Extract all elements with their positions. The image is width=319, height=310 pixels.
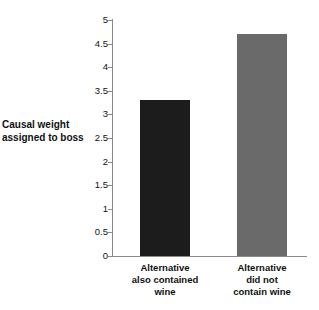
y-axis-tick-row: 0 <box>80 256 108 257</box>
y-axis-tick-row: 2 <box>80 162 108 163</box>
y-axis-tick-row: 5 <box>80 20 108 21</box>
y-axis-tick-row: 3.5 <box>80 91 108 92</box>
x-axis-category-label: Alternative also contained wine <box>110 262 220 298</box>
y-axis-tick-label: 5 <box>84 15 108 25</box>
y-axis-tick-label: 4 <box>84 62 108 72</box>
plot-area <box>112 20 307 256</box>
y-axis-tick-label: 0 <box>84 251 108 261</box>
y-axis-tick-label: 4.5 <box>84 39 108 49</box>
y-axis-tick-row: 4 <box>80 67 108 68</box>
y-axis-tick-row: 4.5 <box>80 44 108 45</box>
y-axis-tick-label: 1.5 <box>84 180 108 190</box>
y-axis-tick-row: 1.5 <box>80 185 108 186</box>
bar-chart-figure: Causal weight assigned to boss 00.511.52… <box>0 0 319 310</box>
y-axis-tick-mark <box>108 256 112 257</box>
x-axis-line <box>112 256 307 257</box>
y-axis-tick-label: 2.5 <box>84 133 108 143</box>
bar-alternative-did-not-contain-wine <box>237 34 287 256</box>
bar-alternative-also-contained-wine <box>140 100 190 256</box>
y-axis-tick-label: 2 <box>84 157 108 167</box>
y-axis-tick-label: 3.5 <box>84 86 108 96</box>
y-axis-tick-row: 3 <box>80 114 108 115</box>
y-axis-title: Causal weight assigned to boss <box>2 119 94 144</box>
y-axis-tick-row: 2.5 <box>80 138 108 139</box>
y-axis-tick-row: 1 <box>80 209 108 210</box>
x-axis-category-label: Alternative did not contain wine <box>208 262 316 298</box>
y-axis-tick-label: 3 <box>84 109 108 119</box>
y-axis-tick-label: 0.5 <box>84 227 108 237</box>
y-axis-tick-label: 1 <box>84 204 108 214</box>
y-axis-tick-row: 0.5 <box>80 232 108 233</box>
